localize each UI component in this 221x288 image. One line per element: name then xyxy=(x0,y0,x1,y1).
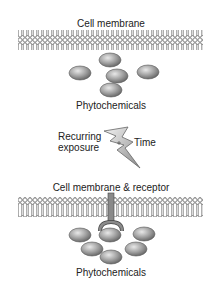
phytochemicals-label-top: Phytochemicals xyxy=(76,100,146,111)
cell-membrane-label: Cell membrane xyxy=(77,18,145,29)
phytochemicals-group-bottom xyxy=(69,227,155,264)
recurring-label: Recurring xyxy=(58,131,101,142)
time-label: Time xyxy=(134,137,156,148)
cell-membrane-top xyxy=(18,30,203,50)
cell-membrane-receptor-label: Cell membrane & receptor xyxy=(53,182,170,193)
exposure-label: exposure xyxy=(58,142,99,153)
diagram-canvas xyxy=(0,0,221,288)
phytochemicals-group-top xyxy=(69,53,159,97)
phytochemicals-label-bottom: Phytochemicals xyxy=(76,267,146,278)
